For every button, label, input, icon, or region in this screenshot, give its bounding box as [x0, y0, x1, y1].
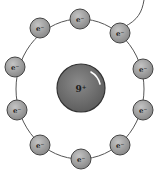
electron-label: e⁻: [139, 65, 147, 74]
electron: e⁻: [30, 18, 50, 38]
electron-label: e⁻: [77, 155, 85, 164]
electron-label: e⁻: [11, 63, 19, 72]
electron-label: e⁻: [139, 106, 147, 115]
electron-label: e⁻: [36, 141, 44, 150]
electron: e⁻: [133, 59, 153, 79]
electron: e⁻: [71, 149, 91, 169]
electron: e⁻: [30, 135, 50, 155]
nucleus: 9⁺: [57, 64, 105, 112]
electron-label: e⁻: [36, 24, 44, 33]
electron: e⁻: [110, 135, 130, 155]
electron: e⁻: [70, 9, 90, 29]
electron-label: e⁻: [76, 15, 84, 24]
nucleus-charge-label: 9⁺: [75, 84, 86, 94]
electron-label: e⁻: [116, 29, 124, 38]
electron: e⁻: [7, 100, 27, 120]
electron: e⁻: [110, 23, 130, 43]
electron-label: e⁻: [13, 106, 21, 115]
leader-line: [124, 0, 144, 27]
electron: e⁻: [5, 57, 25, 77]
atom-diagram: 9⁺ e⁻e⁻e⁻e⁻e⁻e⁻e⁻e⁻e⁻e⁻: [0, 0, 160, 173]
electron-label: e⁻: [116, 141, 124, 150]
electron: e⁻: [133, 100, 153, 120]
